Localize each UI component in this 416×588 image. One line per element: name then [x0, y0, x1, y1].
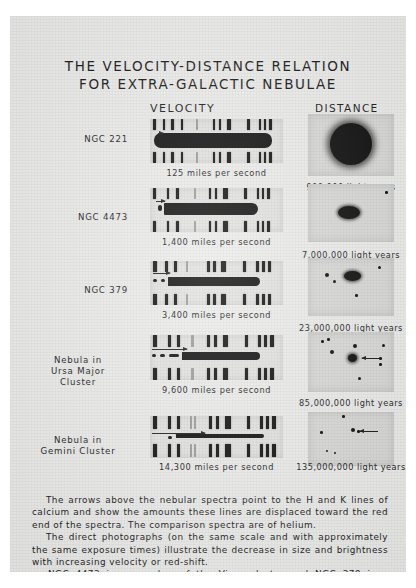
- object-name: NGC 379: [24, 285, 128, 296]
- caption-paragraph-2: The direct photographs (on the same scal…: [32, 531, 388, 568]
- comparison-spectrum-bottom: [150, 444, 283, 457]
- object-name: NGC 221: [24, 134, 128, 145]
- spectrum-strip: [150, 335, 283, 380]
- nebula-photograph: [308, 332, 394, 392]
- column-header-velocity: VELOCITY: [150, 102, 215, 115]
- figure-caption: The arrows above the nebular spectra poi…: [32, 494, 388, 572]
- redshift-arrow: [153, 273, 170, 274]
- redshift-arrow: [152, 433, 205, 434]
- velocity-value: 3,400 miles per second: [150, 310, 283, 320]
- comparison-spectrum-bottom: [150, 294, 283, 305]
- velocity-value: 1,400 miles per second: [150, 237, 283, 247]
- distance-value: 85,000,000 light years: [296, 398, 406, 408]
- column-header-distance: DISTANCE: [315, 102, 379, 114]
- redshift-arrow: [158, 133, 163, 134]
- object-name: Nebula in Gemini Cluster: [28, 435, 128, 457]
- figure-title-line-1: THE VELOCITY-DISTANCE RELATION: [10, 58, 406, 74]
- figure-plate: THE VELOCITY-DISTANCE RELATION FOR EXTRA…: [10, 16, 406, 572]
- photo-pointer-arrow: [360, 431, 378, 432]
- comparison-spectrum-top: [150, 335, 283, 347]
- nebula-photograph: [308, 258, 394, 316]
- comparison-spectrum-top: [150, 119, 283, 130]
- velocity-value: 125 miles per second: [150, 168, 283, 178]
- velocity-value: 9,600 miles per second: [150, 385, 283, 395]
- caption-paragraph-3: NGC 4473 is a member of the Virgo cluste…: [32, 568, 388, 572]
- spectrum-strip: [150, 188, 283, 232]
- spectrum-strip: [150, 416, 283, 458]
- comparison-spectrum-bottom: [150, 221, 283, 232]
- comparison-spectrum-top: [150, 416, 283, 429]
- distance-value: 135,000,000 light years: [296, 462, 406, 472]
- figure-title-line-2: FOR EXTRA-GALACTIC NEBULAE: [10, 76, 406, 92]
- comparison-spectrum-top: [150, 188, 283, 199]
- nebula-photograph: [308, 114, 394, 176]
- spectrum-strip: [150, 119, 283, 163]
- redshift-arrow: [156, 201, 165, 202]
- object-name: NGC 4473: [24, 212, 128, 223]
- comparison-spectrum-bottom: [150, 368, 283, 380]
- comparison-spectrum-bottom: [150, 152, 283, 163]
- nebula-photograph: [308, 412, 394, 466]
- velocity-value: 14,300 miles per second: [150, 462, 283, 472]
- redshift-arrow: [152, 349, 187, 350]
- nebula-photograph: [308, 184, 394, 242]
- caption-paragraph-1: The arrows above the nebular spectra poi…: [32, 494, 388, 531]
- photo-pointer-arrow: [362, 358, 380, 359]
- object-name: Nebula in Ursa Major Cluster: [28, 355, 128, 388]
- spectrum-strip: [150, 261, 283, 305]
